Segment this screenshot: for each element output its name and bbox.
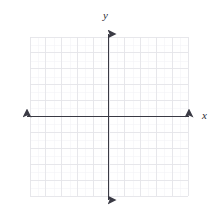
coordinate-plane-figure: y x [0, 0, 218, 217]
x-axis-label: x [202, 110, 207, 121]
coordinate-plane-svg [0, 0, 218, 217]
y-axis-label: y [103, 10, 108, 21]
